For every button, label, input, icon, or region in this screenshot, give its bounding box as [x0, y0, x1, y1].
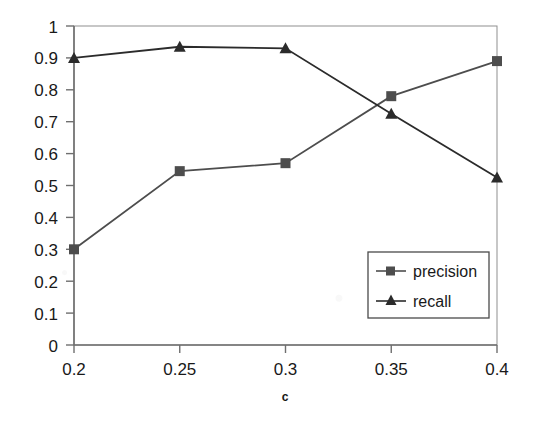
x-tick-label: 0.25: [163, 360, 196, 379]
y-tick-label: 0.7: [34, 113, 58, 132]
y-axis-tick-labels: 0 0.1 0.2 0.3 0.4 0.5 0.6 0.7 0.8 0.9 1: [34, 18, 58, 356]
y-tick-label: 0: [49, 337, 58, 356]
data-point-square: [386, 91, 396, 101]
x-tick-label: 0.4: [485, 360, 509, 379]
x-tick-label: 0.2: [62, 360, 86, 379]
y-tick-label: 0.3: [34, 241, 58, 260]
chart-canvas: 0 0.1 0.2 0.3 0.4 0.5 0.6 0.7 0.8 0.9 1 …: [0, 0, 538, 426]
y-tick-label: 0.1: [34, 305, 58, 324]
y-tick-label: 0.6: [34, 145, 58, 164]
data-point-square: [69, 244, 79, 254]
y-tick-label: 0.4: [34, 209, 58, 228]
y-tick-label: 1: [49, 18, 58, 37]
x-axis-ticks: [74, 345, 497, 353]
y-tick-label: 0.2: [34, 273, 58, 292]
data-point-square: [175, 166, 185, 176]
data-point-square: [492, 56, 502, 66]
x-tick-label: 0.3: [274, 360, 298, 379]
legend-label-recall: recall: [413, 293, 451, 310]
square-marker-icon: [386, 267, 395, 276]
legend-label-precision: precision: [413, 263, 477, 280]
y-tick-label: 0.8: [34, 81, 58, 100]
y-tick-label: 0.9: [34, 49, 58, 68]
x-tick-label: 0.35: [375, 360, 408, 379]
y-tick-label: 0.5: [34, 177, 58, 196]
chart-figure: 0 0.1 0.2 0.3 0.4 0.5 0.6 0.7 0.8 0.9 1 …: [0, 0, 538, 426]
y-axis-ticks: [66, 26, 74, 345]
x-axis-title: c: [282, 390, 289, 404]
chart-legend: precision recall: [368, 252, 489, 318]
x-axis-tick-labels: 0.2 0.25 0.3 0.35 0.4: [62, 360, 509, 379]
data-point-square: [281, 158, 291, 168]
